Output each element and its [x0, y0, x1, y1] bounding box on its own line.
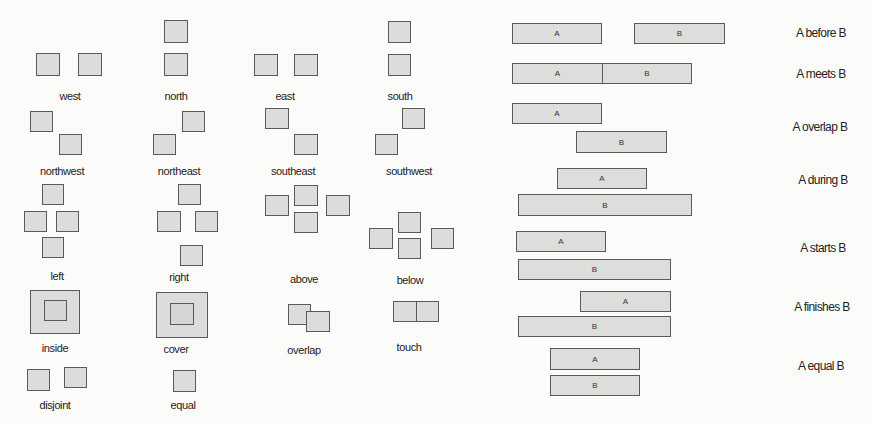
interval-bar-a: A [512, 63, 603, 84]
region-box [30, 111, 53, 132]
interval-bar-a: A [512, 23, 602, 44]
temporal-relation-label: A meets B [796, 67, 845, 81]
region-box [178, 184, 201, 205]
interval-bar-b: B [518, 316, 671, 337]
spatial-relation-label: left [50, 270, 63, 282]
relations-diagram: westnortheastsouthnorthwestnortheastsout… [0, 0, 872, 424]
region-box [195, 211, 218, 232]
spatial-relation-label: disjoint [39, 399, 70, 411]
region-box [153, 134, 176, 155]
interval-bar-b: B [602, 63, 692, 84]
region-box [182, 111, 205, 132]
interval-bar-a: A [516, 231, 606, 252]
temporal-relation-label: A overlap B [793, 120, 848, 134]
spatial-relation-label: right [169, 271, 188, 283]
region-box [164, 53, 188, 76]
spatial-relation-label: touch [397, 341, 422, 353]
region-box [393, 301, 417, 322]
interval-bar-a: A [550, 348, 640, 370]
region-box [42, 184, 64, 205]
region-box [56, 211, 79, 232]
interval-bar-b: B [518, 259, 671, 280]
spatial-relation-label: north [164, 90, 187, 102]
region-box [265, 195, 289, 216]
temporal-relation-label: A starts B [800, 241, 845, 255]
spatial-relation-label: southeast [271, 165, 315, 177]
region-box [294, 212, 318, 233]
region-box [265, 108, 289, 129]
interval-bar-b: B [576, 131, 667, 153]
spatial-relation-label: west [59, 90, 80, 102]
region-box [375, 134, 398, 155]
spatial-relation-label: southwest [386, 165, 432, 177]
spatial-relation-label: above [290, 273, 318, 285]
interval-bar-a: A [580, 291, 671, 312]
region-box [180, 245, 203, 266]
region-box [398, 212, 421, 233]
spatial-relation-label: equal [171, 399, 196, 411]
interval-bar-a: A [512, 103, 602, 124]
region-box [64, 367, 87, 388]
region-box [59, 134, 82, 155]
interval-bar-b: B [550, 375, 640, 396]
region-box [27, 369, 50, 391]
inner-region-box [44, 300, 67, 321]
region-box [254, 54, 278, 76]
inner-region-box [170, 303, 194, 325]
region-box [164, 20, 188, 43]
region-box [294, 185, 318, 206]
region-box [294, 134, 318, 155]
spatial-relation-label: south [388, 90, 413, 102]
interval-bar-b: B [518, 194, 692, 216]
region-box [402, 108, 425, 129]
temporal-relation-label: A finishes B [794, 300, 850, 314]
region-box [416, 301, 439, 322]
region-box [306, 311, 330, 332]
interval-bar-b: B [634, 23, 725, 44]
region-box [326, 195, 350, 216]
spatial-relation-label: cover [164, 343, 189, 355]
spatial-relation-label: overlap [287, 344, 320, 356]
spatial-relation-label: east [275, 90, 294, 102]
region-box [36, 53, 60, 76]
temporal-relation-label: A before B [796, 26, 846, 40]
region-box [388, 21, 411, 43]
region-box [369, 228, 393, 249]
region-box [42, 237, 64, 258]
region-box [294, 54, 318, 76]
region-box [78, 53, 102, 76]
interval-bar-a: A [557, 168, 647, 189]
region-box [431, 228, 454, 249]
spatial-relation-label: northeast [158, 165, 200, 177]
spatial-relation-label: northwest [40, 165, 84, 177]
region-box [173, 370, 196, 392]
temporal-relation-label: A equal B [798, 359, 844, 373]
region-box [24, 211, 47, 232]
spatial-relation-label: inside [42, 342, 68, 354]
region-box [398, 238, 421, 259]
spatial-relation-label: below [397, 274, 424, 286]
region-box [157, 211, 181, 232]
temporal-relation-label: A during B [798, 173, 847, 187]
region-box [388, 54, 411, 76]
